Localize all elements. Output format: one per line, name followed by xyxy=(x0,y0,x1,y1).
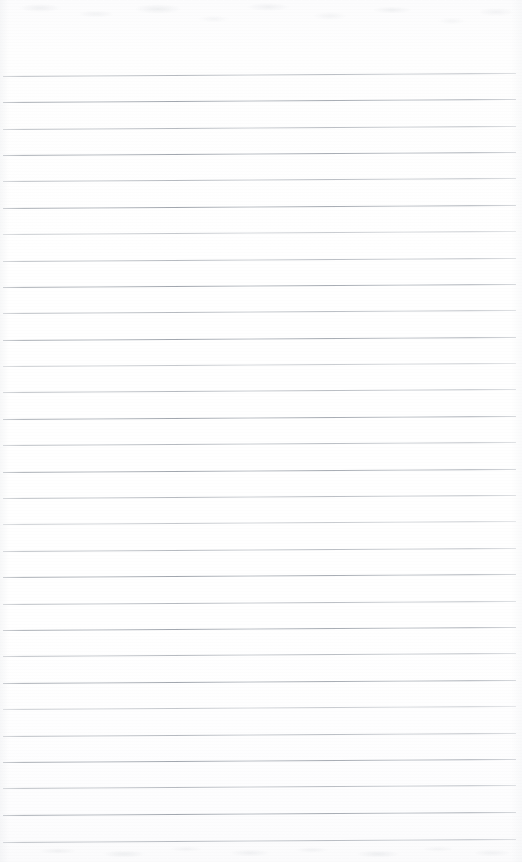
scanned-page xyxy=(0,0,522,862)
writing-area[interactable] xyxy=(3,76,516,842)
